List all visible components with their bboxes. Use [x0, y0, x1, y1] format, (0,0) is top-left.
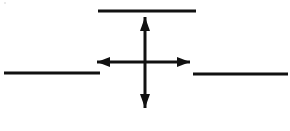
arrowhead-down-icon	[140, 94, 150, 108]
line-diagram	[0, 0, 290, 131]
arrowhead-left-icon	[97, 57, 110, 67]
arrowhead-up-icon	[140, 17, 150, 31]
figure-canvas	[0, 0, 290, 131]
arrowhead-right-icon	[177, 57, 190, 67]
